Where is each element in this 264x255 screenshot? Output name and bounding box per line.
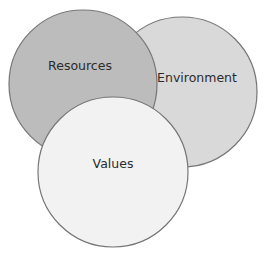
values-label: Values: [93, 156, 134, 171]
resources-label: Resources: [48, 58, 112, 73]
venn-diagram: Environment Resources Values: [0, 0, 264, 255]
values-circle: [38, 97, 188, 247]
circle-values: Values: [38, 97, 188, 247]
environment-label: Environment: [157, 70, 237, 85]
